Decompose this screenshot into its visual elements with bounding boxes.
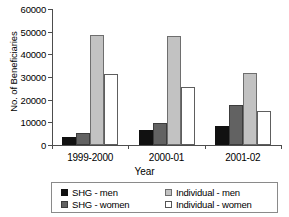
bar (104, 74, 118, 145)
y-tick-label: 30000 (21, 72, 46, 83)
bar (167, 36, 181, 145)
legend-label: Individual - women (176, 199, 252, 210)
y-tick-mark (48, 122, 52, 123)
legend-item[interactable]: Individual - men (165, 187, 240, 198)
y-tick-label: 20000 (21, 94, 46, 105)
bar (257, 111, 271, 145)
bar-group (62, 9, 118, 145)
plot-area: 0100002000030000400005000060000 (52, 9, 281, 146)
legend-swatch-icon (61, 201, 68, 208)
x-tick-mark (205, 145, 206, 149)
y-tick-mark (48, 54, 52, 55)
x-axis-category-label: 2001-02 (225, 152, 260, 163)
legend-item[interactable]: Individual - women (165, 199, 252, 210)
legend-swatch-icon (165, 201, 172, 208)
legend-label: Individual - men (176, 187, 240, 198)
y-tick-label: 60000 (21, 4, 46, 15)
y-axis-title: No. of Beneficiaries (8, 12, 19, 132)
legend-item[interactable]: SHG - women (61, 199, 129, 210)
y-tick-label: 40000 (21, 49, 46, 60)
x-axis-line (52, 145, 281, 146)
bar (153, 123, 167, 145)
bar (62, 137, 76, 145)
bar (90, 35, 104, 145)
bar-group (215, 9, 271, 145)
chart-legend: SHG - menIndividual - menSHG - womenIndi… (51, 182, 278, 213)
bar (215, 126, 229, 145)
legend-swatch-icon (165, 189, 172, 196)
x-axis-title: Year (0, 166, 289, 177)
y-tick-mark (48, 77, 52, 78)
y-axis-line (52, 9, 53, 146)
x-tick-mark (52, 145, 53, 149)
y-tick-mark (48, 9, 52, 10)
bar (243, 73, 257, 145)
y-tick-label: 0 (41, 140, 46, 151)
x-axis-category-label: 2000-01 (149, 152, 184, 163)
bar (181, 87, 195, 145)
bar-group (139, 9, 195, 145)
bar (139, 130, 153, 145)
legend-label: SHG - men (72, 187, 118, 198)
y-tick-mark (48, 100, 52, 101)
x-axis-category-label: 1999-2000 (67, 152, 113, 163)
y-tick-label: 50000 (21, 26, 46, 37)
bar-chart-figure: No. of Beneficiaries 0100002000030000400… (0, 0, 289, 217)
legend-swatch-icon (61, 189, 68, 196)
x-tick-mark (128, 145, 129, 149)
legend-item[interactable]: SHG - men (61, 187, 118, 198)
legend-label: SHG - women (72, 199, 129, 210)
bar (76, 133, 90, 145)
y-tick-mark (48, 32, 52, 33)
bar (229, 105, 243, 145)
x-tick-mark (281, 145, 282, 149)
y-tick-label: 10000 (21, 117, 46, 128)
